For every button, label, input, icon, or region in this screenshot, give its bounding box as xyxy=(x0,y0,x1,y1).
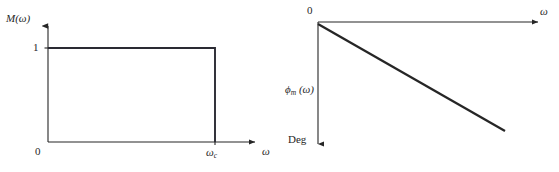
right-chart-y-axis-unit-label: Deg xyxy=(288,134,306,145)
figure-container: M(ω) 1 0 ωc ω 0 ω ϕm (ω) Deg xyxy=(0,0,559,172)
magnitude-response-curve xyxy=(48,48,215,142)
left-chart-cutoff-frequency-label: ωc xyxy=(206,147,217,160)
right-chart-data-series xyxy=(318,24,505,131)
right-chart-y-axis-label: ϕm (ω) xyxy=(285,84,314,97)
left-chart-ytick-label-1: 1 xyxy=(33,42,39,53)
right-chart-origin-label: 0 xyxy=(307,5,313,16)
left-chart-axes xyxy=(48,26,255,142)
left-chart-cutoff-subscript: c xyxy=(214,151,217,160)
right-chart-x-axis-label: ω xyxy=(540,6,548,17)
left-chart-origin-label: 0 xyxy=(35,146,41,157)
left-chart-data-series xyxy=(48,48,215,142)
left-chart-y-axis-label-arg: (ω) xyxy=(15,12,30,24)
left-chart-cutoff-symbol: ω xyxy=(206,146,214,158)
right-chart-axes xyxy=(318,22,538,144)
left-chart-y-axis-label: M(ω) xyxy=(6,13,30,24)
phase-response-curve xyxy=(318,24,505,131)
right-chart-y-axis-arg: (ω) xyxy=(299,83,314,95)
left-chart-ticks xyxy=(45,48,216,145)
figure-svg xyxy=(0,0,559,172)
left-chart-y-axis-label-main: M xyxy=(6,12,15,24)
left-chart-x-axis-label: ω xyxy=(262,146,270,157)
